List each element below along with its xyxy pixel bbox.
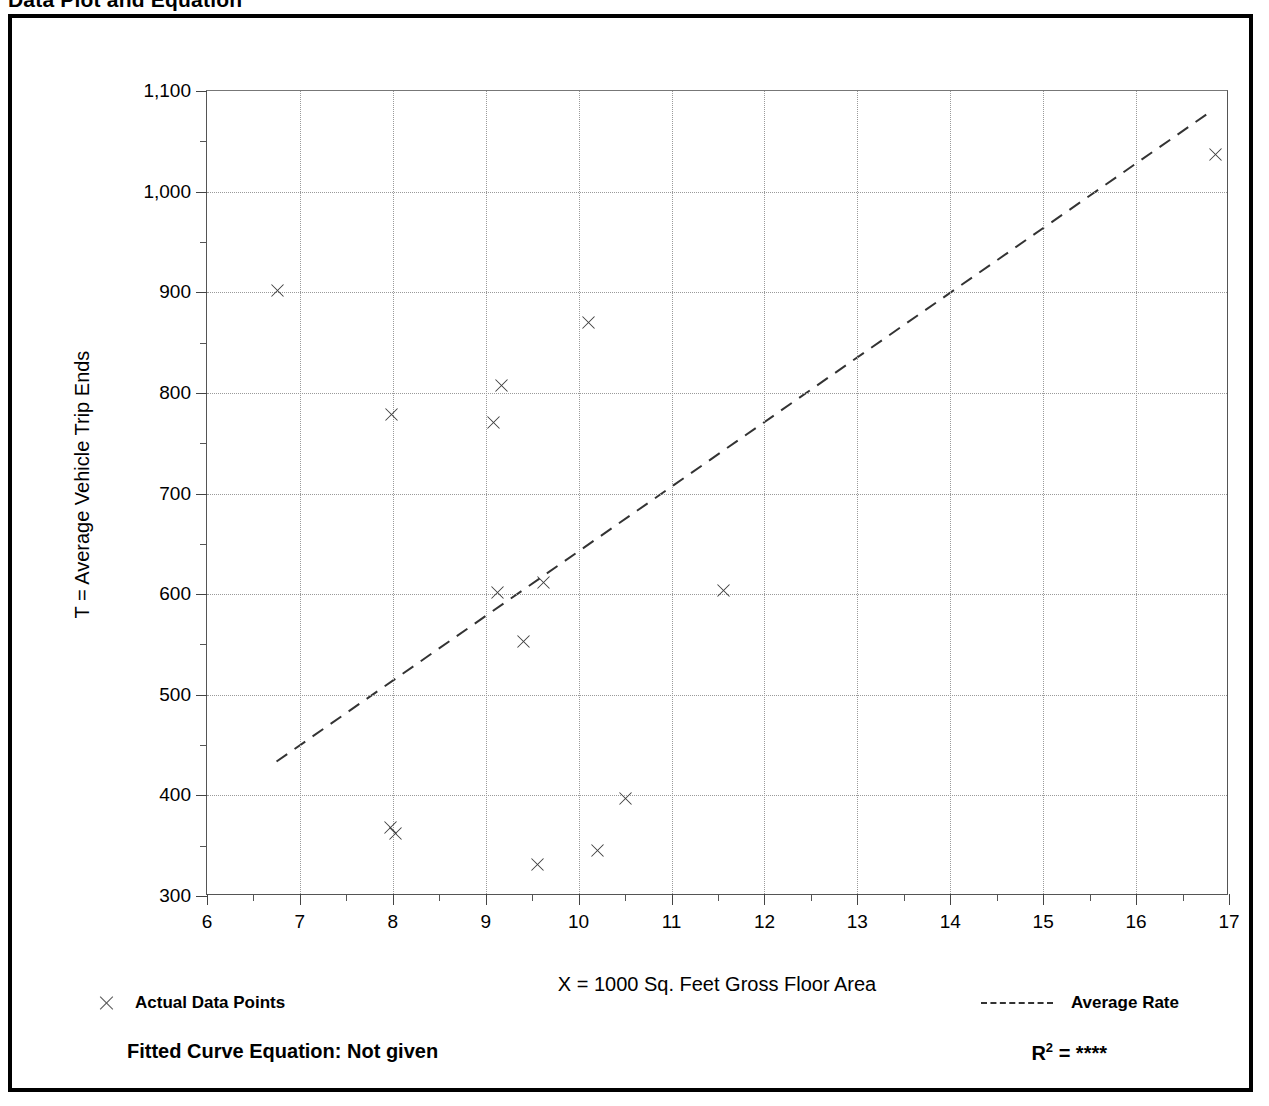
y-axis-tick-label: 500 <box>159 684 191 706</box>
y-axis-tick-label: 1,100 <box>143 80 191 102</box>
r-squared-exponent: 2 <box>1046 1040 1053 1055</box>
gridline-vertical <box>486 91 487 894</box>
x-axis-tick-label: 17 <box>1218 911 1239 933</box>
gridline-vertical <box>579 91 580 894</box>
x-axis-tick-label: 14 <box>940 911 961 933</box>
gridline-vertical <box>1136 91 1137 894</box>
x-axis-tick <box>207 894 208 905</box>
y-axis-minor-tick <box>200 644 207 645</box>
gridline-vertical <box>1043 91 1044 894</box>
y-axis-tick-label: 600 <box>159 583 191 605</box>
x-axis-minor-tick <box>997 894 998 901</box>
y-axis-tick <box>196 795 207 796</box>
legend-label-actual-data-points: Actual Data Points <box>135 993 285 1013</box>
figure-frame: 3004005006007008009001,0001,100678910111… <box>8 14 1253 1092</box>
x-axis-tick <box>857 894 858 905</box>
y-axis-minor-tick <box>200 443 207 444</box>
gridline-horizontal <box>207 795 1227 796</box>
x-axis-tick-label: 10 <box>568 911 589 933</box>
gridline-horizontal <box>207 192 1227 193</box>
r-squared-number: = **** <box>1059 1042 1107 1064</box>
x-axis-tick <box>486 894 487 905</box>
y-axis-tick-label: 700 <box>159 483 191 505</box>
x-axis-minor-tick <box>439 894 440 901</box>
x-marker-icon <box>97 994 115 1012</box>
gridline-vertical <box>672 91 673 894</box>
x-axis-tick-label: 12 <box>754 911 775 933</box>
y-axis-tick-label: 400 <box>159 784 191 806</box>
x-axis-tick-label: 8 <box>388 911 399 933</box>
x-axis-tick-label: 13 <box>847 911 868 933</box>
y-axis-tick-label: 800 <box>159 382 191 404</box>
y-axis-minor-tick <box>200 846 207 847</box>
fitted-curve-equation: Fitted Curve Equation: Not given <box>127 1040 438 1063</box>
y-axis-tick <box>196 192 207 193</box>
gridline-vertical <box>764 91 765 894</box>
y-axis-tick <box>196 91 207 92</box>
y-axis-minor-tick <box>200 141 207 142</box>
y-axis-minor-tick <box>200 242 207 243</box>
page-title: Data Plot and Equation <box>8 0 242 12</box>
x-axis-tick <box>393 894 394 905</box>
y-axis-minor-tick <box>200 544 207 545</box>
x-axis-tick <box>300 894 301 905</box>
x-axis-tick <box>672 894 673 905</box>
x-axis-tick-label: 16 <box>1126 911 1147 933</box>
gridline-vertical <box>393 91 394 894</box>
x-axis-tick <box>1043 894 1044 905</box>
x-axis-minor-tick <box>1090 894 1091 901</box>
y-axis-tick <box>196 896 207 897</box>
x-axis-minor-tick <box>532 894 533 901</box>
dashed-line-icon <box>981 1002 1053 1004</box>
r-squared-value: R2 = **** <box>1031 1040 1107 1065</box>
x-axis-tick-label: 7 <box>295 911 306 933</box>
x-axis-tick <box>1229 894 1230 905</box>
gridline-horizontal <box>207 292 1227 293</box>
x-axis-tick-label: 6 <box>202 911 213 933</box>
y-axis-tick <box>196 494 207 495</box>
gridline-horizontal <box>207 494 1227 495</box>
legend-item-average-rate: Average Rate <box>981 993 1179 1013</box>
plot-area: 3004005006007008009001,0001,100678910111… <box>206 90 1228 895</box>
gridline-vertical <box>857 91 858 894</box>
x-axis-minor-tick <box>625 894 626 901</box>
chart-legend: Actual Data Points Average Rate <box>12 993 1257 1033</box>
x-axis-minor-tick <box>718 894 719 901</box>
x-axis-tick-label: 11 <box>662 911 682 933</box>
x-axis-tick-label: 15 <box>1033 911 1054 933</box>
gridline-vertical <box>950 91 951 894</box>
gridline-horizontal <box>207 594 1227 595</box>
y-axis-minor-tick <box>200 343 207 344</box>
x-axis-minor-tick <box>811 894 812 901</box>
legend-label-average-rate: Average Rate <box>1071 993 1179 1013</box>
y-axis-tick <box>196 594 207 595</box>
x-axis-minor-tick <box>253 894 254 901</box>
x-axis-tick <box>950 894 951 905</box>
gridline-horizontal <box>207 695 1227 696</box>
y-axis-tick-label: 1,000 <box>143 181 191 203</box>
x-axis-tick <box>764 894 765 905</box>
equation-row: Fitted Curve Equation: Not given R2 = **… <box>12 1040 1257 1086</box>
legend-item-actual-data-points: Actual Data Points <box>97 993 285 1013</box>
y-axis-tick <box>196 393 207 394</box>
x-axis-minor-tick <box>904 894 905 901</box>
y-axis-tick-label: 300 <box>159 885 191 907</box>
average-rate-trend-line <box>207 91 1227 894</box>
x-axis-tick <box>1136 894 1137 905</box>
gridline-horizontal <box>207 393 1227 394</box>
y-axis-tick-label: 900 <box>159 281 191 303</box>
y-axis-title: T = Average Vehicle Trip Ends <box>71 165 94 805</box>
x-axis-tick-label: 9 <box>480 911 491 933</box>
y-axis-minor-tick <box>200 745 207 746</box>
r-squared-letter: R <box>1031 1042 1045 1064</box>
y-axis-tick <box>196 695 207 696</box>
x-axis-tick <box>579 894 580 905</box>
x-axis-minor-tick <box>346 894 347 901</box>
y-axis-tick <box>196 292 207 293</box>
gridline-vertical <box>300 91 301 894</box>
x-axis-minor-tick <box>1183 894 1184 901</box>
